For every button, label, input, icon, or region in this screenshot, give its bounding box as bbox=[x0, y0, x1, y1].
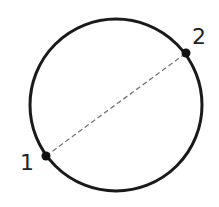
point-1-marker bbox=[42, 152, 51, 161]
diagram-canvas: 1 2 bbox=[0, 0, 219, 207]
point-1-label: 1 bbox=[20, 150, 34, 175]
circle-diagram: 1 2 bbox=[0, 0, 219, 207]
circle-outline bbox=[30, 19, 202, 191]
point-2-label: 2 bbox=[192, 24, 206, 49]
dashed-chord bbox=[46, 53, 186, 156]
point-2-marker bbox=[182, 49, 191, 58]
